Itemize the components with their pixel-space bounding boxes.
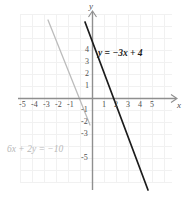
- plot-canvas: [0, 0, 192, 197]
- x-tick-label-3: 3: [126, 101, 130, 109]
- x-tick-label-1: 1: [102, 101, 106, 109]
- x-tick-label-neg4: -4: [31, 101, 38, 109]
- equation-label-gray-line: 6x + 2y = −10: [7, 145, 63, 155]
- y-tick-label-3: 3: [85, 58, 89, 66]
- x-tick-label-neg2: -2: [55, 101, 62, 109]
- y-tick-label-neg1: -1: [81, 106, 88, 114]
- x-axis-name: x: [177, 101, 181, 110]
- y-axis-name: y: [89, 2, 93, 11]
- y-tick-label-neg3: -3: [81, 130, 88, 138]
- y-tick-label-neg5: -5: [81, 154, 88, 162]
- x-tick-label-4: 4: [138, 101, 142, 109]
- x-tick-label-neg1: -1: [67, 101, 74, 109]
- equation-label-dark-line: y = −3x + 4: [98, 49, 143, 59]
- y-axis: [89, 11, 97, 190]
- linear-equations-graph: -5 -4 -3 -2 -1 1 2 3 4 5 4 3 2 1 -1 -2 -…: [0, 0, 192, 197]
- y-tick-label-1: 1: [85, 82, 89, 90]
- y-tick-label-2: 2: [85, 70, 89, 78]
- x-tick-label-2: 2: [114, 101, 118, 109]
- x-tick-label-5: 5: [150, 101, 154, 109]
- x-tick-label-neg5: -5: [19, 101, 26, 109]
- y-tick-label-neg2: -2: [81, 118, 88, 126]
- x-tick-label-neg3: -3: [43, 101, 50, 109]
- y-tick-label-4: 4: [85, 46, 89, 54]
